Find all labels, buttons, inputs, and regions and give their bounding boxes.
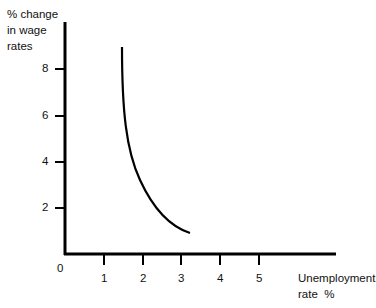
- x-tick-label-4: 4: [217, 272, 223, 284]
- x-tick-label-5: 5: [256, 272, 262, 284]
- y-tick-label-2: 2: [42, 201, 48, 213]
- x-tick-label-3: 3: [178, 272, 184, 284]
- phillips-curve: [122, 47, 190, 233]
- x-axis-label-line-2: rate %: [298, 286, 375, 302]
- x-tick-label-2: 2: [140, 272, 146, 284]
- y-tick-label-8: 8: [42, 62, 48, 74]
- x-ticks: [104, 254, 259, 265]
- x-axis-label-line-1: Unemployment: [298, 270, 375, 286]
- y-tick-label-4: 4: [42, 155, 48, 167]
- x-tick-label-1: 1: [101, 272, 107, 284]
- origin-label: 0: [57, 262, 63, 274]
- x-axis-label: Unemployment rate %: [298, 270, 375, 302]
- y-tick-label-6: 6: [42, 109, 48, 121]
